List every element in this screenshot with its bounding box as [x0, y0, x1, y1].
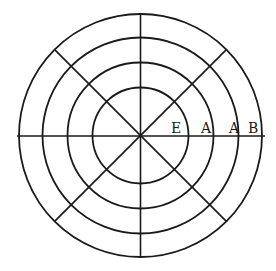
label-a-outer: A: [228, 120, 240, 136]
label-a-inner: A: [200, 120, 212, 136]
label-b: B: [248, 120, 258, 136]
label-e: E: [171, 120, 181, 136]
labels-group: E A A B: [171, 120, 258, 136]
concentric-circle-diagram: E A A B: [0, 0, 276, 271]
